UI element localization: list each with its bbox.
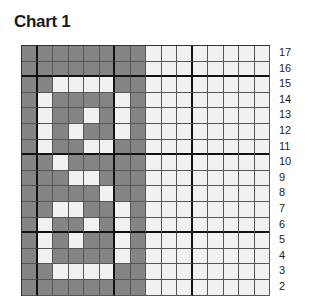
chart-cell (22, 62, 38, 78)
chart-cell (22, 46, 38, 62)
chart-cell (53, 155, 69, 171)
chart-cell (177, 155, 193, 171)
row-label: 15 (279, 76, 291, 92)
chart-cell (162, 155, 178, 171)
row-label: 3 (279, 263, 291, 279)
chart-cell (131, 62, 147, 78)
chart-cell (208, 249, 224, 265)
chart-cell (162, 264, 178, 280)
chart-cell (208, 280, 224, 296)
chart-cell (84, 155, 100, 171)
chart-cell (193, 186, 209, 202)
chart-cell (38, 218, 54, 234)
chart-cell (131, 233, 147, 249)
chart-cell (239, 264, 255, 280)
chart-cell (239, 46, 255, 62)
chart-cell (224, 202, 240, 218)
chart-cell (22, 280, 38, 296)
chart-cell (224, 108, 240, 124)
chart-cell (208, 186, 224, 202)
chart-cell (193, 280, 209, 296)
chart-cell (193, 155, 209, 171)
chart-cell (84, 249, 100, 265)
chart-cell (177, 140, 193, 156)
chart-cell (131, 280, 147, 296)
chart-cell (115, 202, 131, 218)
chart-cell (177, 124, 193, 140)
chart-cell (208, 140, 224, 156)
chart-cell (22, 140, 38, 156)
chart-cell (193, 124, 209, 140)
chart-cell (69, 108, 85, 124)
chart-cell (84, 202, 100, 218)
chart-cell (162, 93, 178, 109)
chart-cell (162, 249, 178, 265)
chart-cell (146, 124, 162, 140)
chart-cell (177, 233, 193, 249)
chart-cell (69, 77, 85, 93)
chart-cell (69, 171, 85, 187)
chart-cell (69, 264, 85, 280)
chart-cell (239, 280, 255, 296)
chart-cell (84, 218, 100, 234)
chart-cell (224, 249, 240, 265)
chart-cell (131, 218, 147, 234)
chart-cell (115, 62, 131, 78)
chart-cell (255, 280, 271, 296)
chart-cell (69, 124, 85, 140)
chart-cell (53, 140, 69, 156)
chart-cell (100, 108, 116, 124)
chart-cell (162, 62, 178, 78)
chart-cell (100, 233, 116, 249)
chart-cell (224, 62, 240, 78)
chart-cell (69, 233, 85, 249)
chart-cell (84, 171, 100, 187)
chart-cell (224, 264, 240, 280)
chart-cell (255, 124, 271, 140)
chart-cell (162, 171, 178, 187)
chart-cell (224, 77, 240, 93)
row-label: 16 (279, 61, 291, 77)
chart-cell (100, 264, 116, 280)
chart-cell (146, 264, 162, 280)
chart-cell (177, 186, 193, 202)
chart-cell (177, 108, 193, 124)
chart-cell (255, 93, 271, 109)
chart-cell (239, 140, 255, 156)
row-label: 12 (279, 123, 291, 139)
chart-cell (208, 77, 224, 93)
chart-cell (224, 171, 240, 187)
chart-cell (69, 46, 85, 62)
chart-cell (84, 124, 100, 140)
chart-cell (224, 186, 240, 202)
row-label: 8 (279, 185, 291, 201)
chart-cell (53, 124, 69, 140)
chart-cell (146, 93, 162, 109)
chart-cell (100, 249, 116, 265)
chart-cell (38, 155, 54, 171)
chart-cell (146, 155, 162, 171)
row-label: 14 (279, 92, 291, 108)
chart-cell (22, 108, 38, 124)
chart-cell (53, 264, 69, 280)
chart-cell (100, 171, 116, 187)
row-number-labels: 171615141312111098765432 (279, 45, 291, 295)
chart-cell (69, 218, 85, 234)
chart-cell (22, 155, 38, 171)
chart-cell (100, 140, 116, 156)
chart-cell (38, 46, 54, 62)
chart-cell (84, 77, 100, 93)
chart-cell (53, 46, 69, 62)
chart-cell (162, 218, 178, 234)
chart-cell (38, 62, 54, 78)
chart-cell (162, 77, 178, 93)
chart-cell (146, 46, 162, 62)
chart-cell (84, 62, 100, 78)
chart-cell (115, 171, 131, 187)
chart-cell (193, 140, 209, 156)
chart-cell (69, 93, 85, 109)
chart-cell (255, 202, 271, 218)
chart-cell (131, 77, 147, 93)
chart-cell (146, 108, 162, 124)
chart-cell (224, 218, 240, 234)
